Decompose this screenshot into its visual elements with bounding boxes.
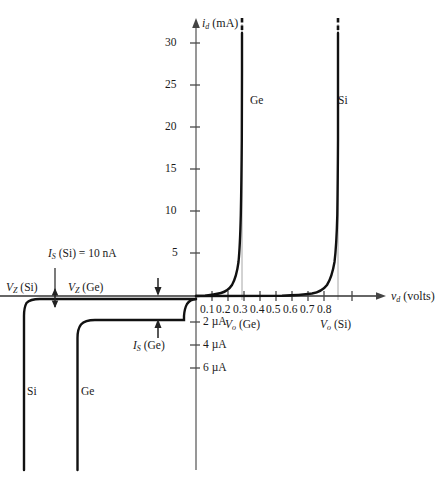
annotation-vz-ge-subscript: Z — [75, 286, 79, 295]
y-axis-label-subscript: d — [205, 22, 209, 31]
annotation-vo-si-symbol: V — [320, 318, 327, 330]
x-tick-label-0p3: 0.3 — [233, 303, 247, 315]
curve-label-si-reverse: Si — [27, 385, 37, 397]
annotation-is-si-subscript: S — [52, 252, 56, 261]
annotation-is-ge-material: (Ge) — [144, 339, 165, 351]
x-tick-label-0p4: 0.4 — [250, 303, 264, 315]
arrow-axis-marker-icon — [155, 278, 162, 296]
x-axis-label-subscript: d — [396, 295, 400, 304]
annotation-is-si-value: = 10 nA — [79, 247, 117, 259]
annotation-vz-ge-symbol: V — [68, 281, 75, 293]
annotation-vo-ge-material: (Ge) — [239, 318, 260, 330]
annotation-vo-ge-subscript: o — [232, 323, 236, 332]
curve-label-si-forward: Si — [338, 94, 348, 106]
annotation-vo-si-subscript: o — [327, 323, 331, 332]
annotation-vz-ge-material: (Ge) — [82, 281, 103, 293]
annotation-vo-si: Vo (Si) — [320, 318, 351, 332]
x-tick-label-0p1: 0.1 — [200, 303, 214, 315]
annotation-vz-si-symbol: V — [6, 281, 13, 293]
y-axis-ticks-negative — [190, 322, 200, 368]
y-tick-label-20: 20 — [165, 120, 177, 132]
x-tick-label-0p7: 0.7 — [300, 303, 314, 315]
y-tick-label-5: 5 — [172, 246, 178, 258]
annotation-vo-ge: Vo (Ge) — [225, 318, 260, 332]
y-axis-arrowhead-icon — [192, 18, 200, 28]
y-axis-ticks-positive — [190, 43, 200, 253]
x-axis-label: vd (volts) — [391, 289, 435, 304]
x-axis-arrowhead-icon — [376, 292, 386, 300]
y-axis-label: id (mA) — [202, 16, 238, 31]
y-axis-label-unit: (mA) — [212, 16, 238, 30]
y-tick-label-4ua: 4 µA — [203, 338, 227, 350]
arrow-is-ge-icon — [155, 319, 162, 338]
curve-ge-forward — [196, 33, 242, 296]
curve-si-forward — [196, 33, 338, 296]
annotation-is-ge-subscript: S — [137, 344, 141, 353]
curve-ge-reverse — [78, 299, 197, 470]
annotation-is-ge: IS (Ge) — [133, 339, 165, 353]
x-tick-label-0p5: 0.5 — [266, 303, 280, 315]
y-tick-label-15: 15 — [165, 162, 177, 174]
curve-si-reverse — [24, 299, 196, 470]
annotation-vo-ge-symbol: V — [225, 318, 232, 330]
y-tick-label-30: 30 — [165, 36, 177, 48]
annotation-is-si-material: (Si) — [59, 247, 76, 259]
annotation-vo-si-material: (Si) — [334, 318, 351, 330]
x-axis-label-unit: (volts) — [403, 289, 434, 303]
annotation-is-si: IS (Si) = 10 nA — [48, 247, 117, 261]
x-tick-label-0p2: 0.2 — [216, 303, 230, 315]
y-tick-label-10: 10 — [165, 204, 177, 216]
y-tick-label-6ua: 6 µA — [203, 361, 227, 373]
annotation-vz-si: VZ (Si) — [6, 281, 38, 295]
annotation-vz-si-material: (Si) — [20, 281, 37, 293]
x-tick-label-0p8: 0.8 — [317, 303, 331, 315]
annotation-vz-si-subscript: Z — [13, 286, 17, 295]
annotation-vz-ge: VZ (Ge) — [68, 281, 103, 295]
curve-label-ge-reverse: Ge — [81, 385, 94, 397]
x-tick-label-0p6: 0.6 — [283, 303, 297, 315]
curve-label-ge-forward: Ge — [250, 94, 263, 106]
y-tick-label-2ua: 2 µA — [203, 315, 227, 327]
y-tick-label-25: 25 — [165, 78, 177, 90]
